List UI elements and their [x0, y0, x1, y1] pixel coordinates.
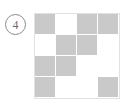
grid-cell-r2-c2	[56, 35, 77, 56]
grid-cell-r3-c3	[77, 56, 98, 77]
grid-cell-r2-c1	[35, 35, 56, 56]
grid-cell-r1-c1	[35, 14, 56, 35]
circled-number-icon: 4	[5, 14, 26, 35]
pattern-grid-container	[34, 13, 120, 99]
grid-cell-r2-c4	[98, 35, 119, 56]
grid-cell-r3-c1	[35, 56, 56, 77]
grid-cell-r4-c3	[77, 77, 98, 98]
figure-option: 4	[0, 0, 128, 107]
grid-cell-r1-c3	[77, 14, 98, 35]
grid-cell-r2-c3	[77, 35, 98, 56]
grid-cell-r4-c4	[98, 77, 119, 98]
pattern-grid	[35, 14, 119, 98]
grid-cell-r1-c2	[56, 14, 77, 35]
grid-cell-r4-c2	[56, 77, 77, 98]
grid-cell-r1-c4	[98, 14, 119, 35]
grid-cell-r3-c2	[56, 56, 77, 77]
grid-cell-r3-c4	[98, 56, 119, 77]
index-label: 4	[13, 18, 19, 30]
grid-cell-r4-c1	[35, 77, 56, 98]
